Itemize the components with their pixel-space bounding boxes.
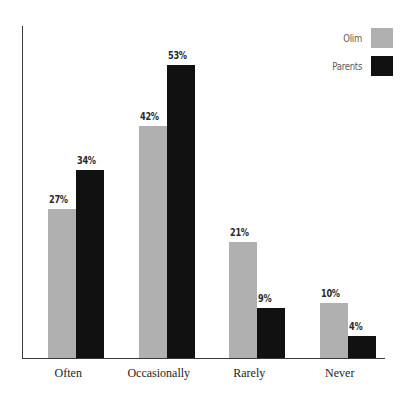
bar-parents-often: 34% — [76, 26, 104, 358]
bar-rect — [76, 170, 104, 358]
bar-value-label: 53% — [168, 50, 187, 61]
bar-value-label: 4% — [349, 321, 362, 332]
bar-value-label: 9% — [258, 293, 271, 304]
bar-rect — [48, 209, 76, 358]
bar-parents-occasionally: 53% — [167, 26, 195, 358]
x-axis-line — [22, 358, 385, 359]
legend-label-parents: Parents — [332, 61, 362, 72]
bar-rect — [139, 126, 167, 358]
bar-value-label: 10% — [321, 288, 340, 299]
bar-value-label: 21% — [230, 227, 249, 238]
legend-swatch-parents — [371, 56, 393, 76]
category-label-never: Never — [295, 366, 386, 381]
legend-item-olim: Olim — [327, 28, 393, 48]
category-label-occasionally: Occasionally — [114, 366, 205, 381]
bar-value-label: 27% — [49, 194, 68, 205]
category-label-often: Often — [23, 366, 114, 381]
chart-legend: Olim Parents — [327, 28, 393, 76]
bar-olim-occasionally: 42% — [139, 26, 167, 358]
bar-parents-rarely: 9% — [257, 26, 285, 358]
category-label-rarely: Rarely — [204, 366, 295, 381]
bar-olim-often: 27% — [48, 26, 76, 358]
bar-rect — [167, 65, 195, 358]
bar-rect — [348, 336, 376, 358]
bar-group: 21%9% — [229, 26, 285, 358]
bar-group: 27%34% — [48, 26, 104, 358]
legend-label-olim: Olim — [343, 33, 362, 44]
bar-value-label: 34% — [77, 155, 96, 166]
bar-rect — [229, 242, 257, 358]
legend-swatch-olim — [371, 28, 393, 48]
bar-rect — [257, 308, 285, 358]
bar-olim-rarely: 21% — [229, 26, 257, 358]
bar-value-label: 42% — [140, 111, 159, 122]
bar-chart: 27%34%42%53%21%9%10%4% OftenOccasionally… — [0, 0, 407, 395]
bar-group: 42%53% — [139, 26, 195, 358]
bar-rect — [320, 303, 348, 358]
legend-item-parents: Parents — [327, 56, 393, 76]
